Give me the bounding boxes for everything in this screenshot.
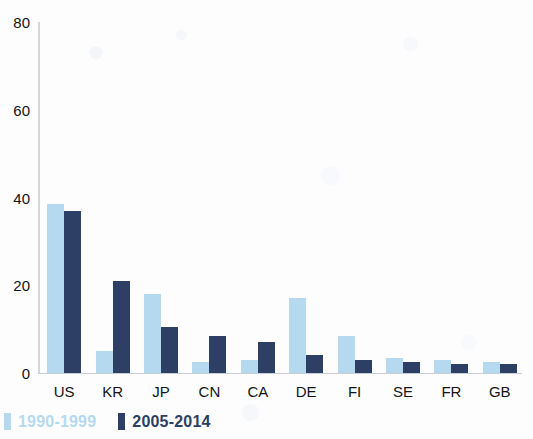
bar [64,211,81,373]
bar-group: GB [483,22,517,373]
legend-swatch-icon [4,413,11,430]
legend-label: 1990-1999 [18,414,96,430]
bar [434,360,451,373]
bar [338,336,355,373]
x-axis-tick-label: CA [241,384,275,399]
legend-label: 2005-2014 [132,414,210,430]
y-axis-tick-label: 40 [0,190,30,205]
x-axis-tick-label: CN [192,384,226,399]
bar [403,362,420,373]
x-axis-tick-label: GB [483,384,517,399]
y-axis-tick-label: 0 [0,366,30,381]
y-axis-tick-label: 80 [0,15,30,30]
legend: 1990-19992005-2014 [4,413,211,430]
bar [483,362,500,373]
bar [258,342,275,373]
bar [209,336,226,373]
legend-entry: 2005-2014 [118,413,210,430]
bar [113,281,130,373]
y-axis-tick-label: 60 [0,102,30,117]
bar [192,362,209,373]
bar [47,204,64,373]
x-axis-tick-label: FI [338,384,372,399]
bar-group: US [47,22,81,373]
legend-entry: 1990-1999 [4,413,96,430]
bar [306,355,323,373]
bar-group: FI [338,22,372,373]
x-axis-tick-label: DE [289,384,323,399]
bar-group: JP [144,22,178,373]
bar [144,294,161,373]
x-axis-tick-label: FR [434,384,468,399]
bar-chart: 020406080 USKRJPCNCADEFISEFRGB 1990-1999… [0,0,533,439]
bar [386,358,403,373]
x-axis-tick-label: KR [96,384,130,399]
plot-area: 020406080 USKRJPCNCADEFISEFRGB [38,22,522,373]
bar [161,327,178,373]
legend-swatch-icon [118,413,125,430]
y-axis-tick-label: 20 [0,278,30,293]
bar-group: FR [434,22,468,373]
bar-group: DE [289,22,323,373]
bar-group: KR [96,22,130,373]
x-axis-tick-label: SE [386,384,420,399]
bar [241,360,258,373]
bar-group: CN [192,22,226,373]
bar-group: SE [386,22,420,373]
x-axis-tick-label: JP [144,384,178,399]
bar [500,364,517,373]
bar [96,351,113,373]
bar-group: CA [241,22,275,373]
bar [451,364,468,373]
x-axis-line [38,373,522,374]
bar [355,360,372,373]
bar [289,298,306,373]
x-axis-tick-label: US [47,384,81,399]
bars-layer: USKRJPCNCADEFISEFRGB [40,22,522,373]
